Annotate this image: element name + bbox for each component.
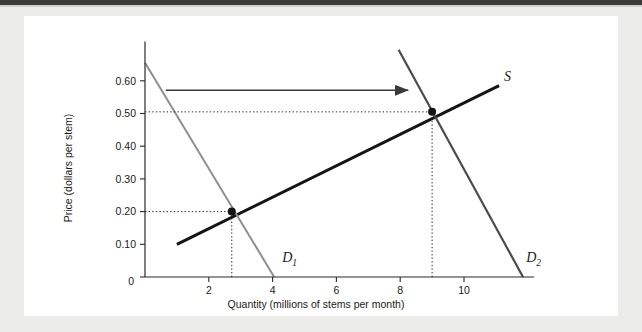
x-tick-label: 6: [333, 284, 339, 296]
curve-label-D2: D2: [525, 250, 541, 268]
y-tick-label: 0.50: [116, 107, 137, 119]
y-tick-label: 0.10: [116, 238, 137, 250]
y-tick-label: 0.20: [116, 205, 137, 217]
curve-D2: [399, 50, 523, 277]
x-tick-label: 4: [270, 284, 276, 296]
y-axis-title: Price (dollars per stem): [62, 114, 74, 223]
curve-label-S: S: [504, 69, 511, 84]
x-tick-label: 8: [397, 284, 403, 296]
y-tick-label: 0.60: [116, 75, 137, 87]
x-axis-title: Quantity (millions of stems per month): [228, 298, 405, 310]
equilibrium-2: [428, 108, 436, 116]
curve-label-D1: D1: [281, 250, 297, 268]
x-tick-label: 10: [458, 284, 470, 296]
curve-D1: [145, 63, 274, 277]
equilibrium-1: [228, 208, 236, 216]
curve-S: [177, 86, 499, 245]
y-tick-label: 0.40: [116, 140, 137, 152]
x-tick-label: 2: [206, 284, 212, 296]
figure-root: 0.100.200.300.400.500.602468100 SD1D2 Pr…: [0, 0, 642, 332]
supply-demand-chart: 0.100.200.300.400.500.602468100 SD1D2 Pr…: [0, 0, 642, 332]
origin-label: 0: [128, 275, 134, 287]
y-tick-label: 0.30: [116, 173, 137, 185]
